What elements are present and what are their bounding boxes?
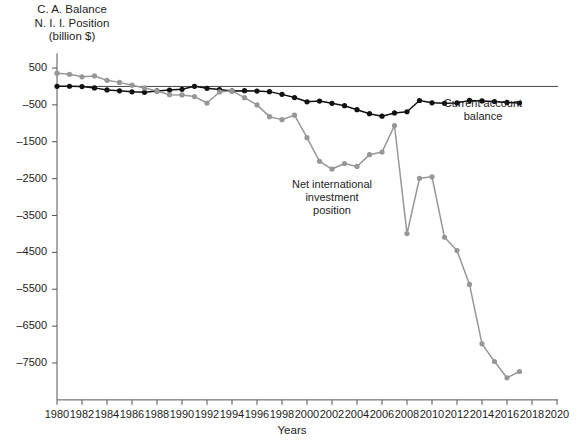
y-axis-tick-label: –7500 — [1, 356, 47, 368]
data-point-marker — [129, 89, 134, 94]
data-point-marker — [304, 135, 309, 140]
data-point-marker — [204, 100, 209, 105]
data-point-marker — [379, 114, 384, 119]
data-point-marker — [242, 95, 247, 100]
chart-container: C. A. Balance N. I. I. Position (billion… — [0, 0, 584, 447]
data-point-marker — [142, 90, 147, 95]
data-point-marker — [79, 84, 84, 89]
data-point-marker — [392, 123, 397, 128]
y-axis-tick-label: –1500 — [1, 135, 47, 147]
x-axis-tick-label: 2020 — [537, 408, 577, 420]
y-axis-tick-label: –5500 — [1, 282, 47, 294]
data-point-marker — [279, 92, 284, 97]
data-point-marker — [67, 72, 72, 77]
data-point-marker — [67, 84, 72, 89]
y-axis-tick-label: 500 — [1, 61, 47, 73]
data-point-marker — [354, 164, 359, 169]
data-point-marker — [342, 161, 347, 166]
data-point-marker — [367, 152, 372, 157]
data-point-marker — [204, 86, 209, 91]
data-point-marker — [392, 110, 397, 115]
data-point-marker — [329, 101, 334, 106]
data-point-marker — [104, 78, 109, 83]
data-point-marker — [417, 98, 422, 103]
data-point-marker — [167, 87, 172, 92]
data-point-marker — [379, 149, 384, 154]
y-axis-tick-label: –4500 — [1, 245, 47, 257]
chart-plot-area — [0, 0, 584, 447]
x-axis-title: Years — [0, 424, 584, 438]
data-point-marker — [317, 98, 322, 103]
data-point-marker — [229, 88, 234, 93]
data-point-marker — [117, 80, 122, 85]
data-point-marker — [167, 92, 172, 97]
data-point-marker — [329, 166, 334, 171]
data-point-marker — [454, 248, 459, 253]
data-point-marker — [354, 107, 359, 112]
series-label-niip: Net international investment position — [277, 178, 387, 217]
data-point-marker — [267, 114, 272, 119]
data-point-marker — [479, 341, 484, 346]
data-point-marker — [292, 113, 297, 118]
y-axis-tick-label: –3500 — [1, 209, 47, 221]
y-axis-tick-label: –6500 — [1, 319, 47, 331]
data-point-marker — [267, 89, 272, 94]
data-point-marker — [179, 92, 184, 97]
data-point-marker — [79, 74, 84, 79]
series-label-current-account: Current account balance — [424, 97, 542, 123]
data-point-marker — [117, 88, 122, 93]
y-axis-tick-label: –2500 — [1, 172, 47, 184]
y-axis-tick-label: –500 — [1, 98, 47, 110]
data-point-marker — [404, 231, 409, 236]
data-point-marker — [92, 73, 97, 78]
data-point-marker — [417, 176, 422, 181]
data-point-marker — [254, 102, 259, 107]
data-point-marker — [342, 103, 347, 108]
data-point-marker — [192, 94, 197, 99]
data-point-marker — [292, 95, 297, 100]
data-point-marker — [217, 89, 222, 94]
data-point-marker — [154, 88, 159, 93]
data-point-marker — [54, 84, 59, 89]
data-point-marker — [179, 87, 184, 92]
data-point-marker — [367, 111, 372, 116]
data-point-marker — [317, 159, 322, 164]
data-point-marker — [104, 87, 109, 92]
data-point-marker — [54, 71, 59, 76]
data-point-marker — [442, 235, 447, 240]
data-point-marker — [129, 83, 134, 88]
data-point-marker — [467, 282, 472, 287]
data-point-marker — [92, 85, 97, 90]
data-point-marker — [304, 99, 309, 104]
data-point-marker — [404, 109, 409, 114]
data-point-marker — [142, 85, 147, 90]
data-point-marker — [254, 88, 259, 93]
data-point-marker — [517, 369, 522, 374]
data-point-marker — [192, 84, 197, 89]
data-point-marker — [242, 88, 247, 93]
data-point-marker — [429, 174, 434, 179]
data-point-marker — [504, 375, 509, 380]
data-point-marker — [492, 359, 497, 364]
data-point-marker — [279, 117, 284, 122]
y-axis-title: C. A. Balance N. I. I. Position (billion… — [8, 3, 136, 44]
